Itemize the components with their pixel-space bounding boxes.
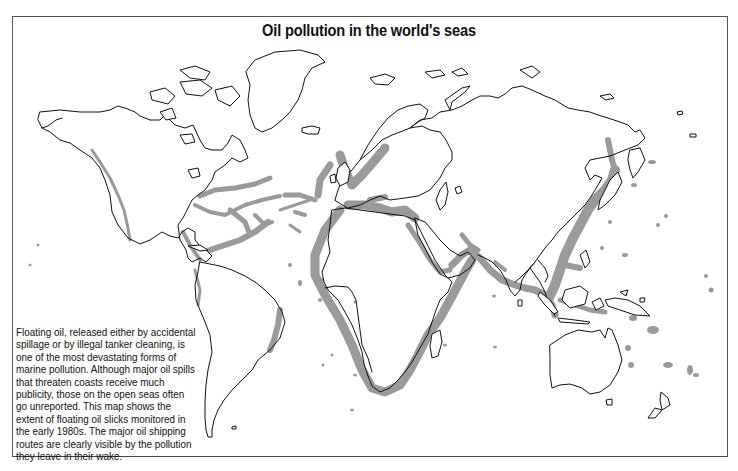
map-caption: Floating oil, released either by acciden…: [16, 326, 196, 462]
